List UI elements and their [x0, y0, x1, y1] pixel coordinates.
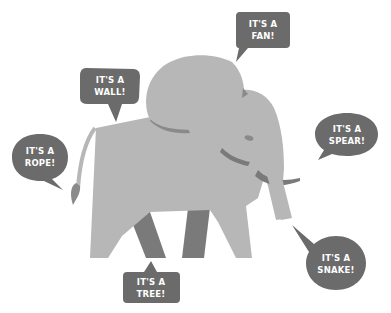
- bubble-snake-line2: SNAKE!: [317, 265, 354, 275]
- bubble-fan-line2: FAN!: [251, 31, 274, 41]
- bubble-wall-line1: IT'S A: [96, 75, 125, 85]
- elephant-illustration: IT'S A FAN! IT'S A WALL! IT'S A ROPE! IT…: [0, 0, 391, 313]
- bubble-tree-line2: TREE!: [137, 289, 166, 299]
- bubble-tree-line1: IT'S A: [137, 277, 166, 287]
- bubble-fan-line1: IT'S A: [249, 19, 278, 29]
- bubble-spear-line1: IT'S A: [333, 124, 362, 134]
- tail-tuft: [71, 183, 80, 205]
- bubble-snake-line1: IT'S A: [322, 253, 351, 263]
- elephant-ear: [146, 55, 244, 130]
- bubble-rope-line1: IT'S A: [26, 146, 55, 156]
- bubble-spear-line2: SPEAR!: [329, 136, 365, 146]
- bubble-snake: IT'S A SNAKE!: [292, 225, 366, 290]
- bubble-rope: IT'S A ROPE!: [12, 134, 68, 190]
- tail: [71, 128, 95, 205]
- bubble-fan: IT'S A FAN!: [236, 12, 290, 62]
- bubble-rope-line2: ROPE!: [25, 158, 56, 168]
- far-front-leg: [182, 208, 210, 258]
- bubble-tree: IT'S A TREE!: [123, 261, 180, 303]
- bubble-wall: IT'S A WALL!: [80, 68, 140, 122]
- illustration-canvas: IT'S A FAN! IT'S A WALL! IT'S A ROPE! IT…: [0, 0, 391, 313]
- bubble-wall-line2: WALL!: [94, 87, 125, 97]
- bubble-spear: IT'S A SPEAR!: [315, 113, 378, 160]
